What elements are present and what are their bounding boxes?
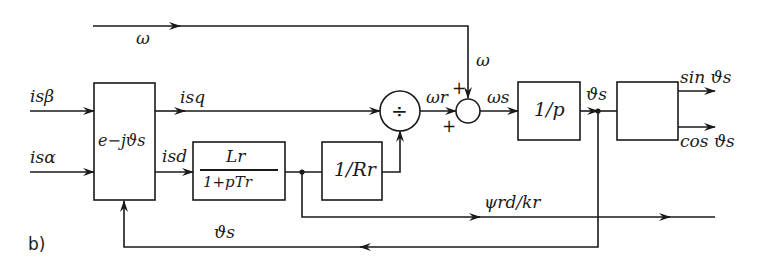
i-sq-label: isq [180, 89, 205, 106]
inv-rr-to-divider [382, 131, 400, 172]
rotation-block-label: e−jϑs [98, 133, 145, 149]
sum-circle [456, 99, 480, 123]
psi-rd-line [302, 172, 480, 217]
sum-plus-top: + [452, 80, 466, 97]
theta-feedback-label: ϑs [214, 224, 235, 241]
cos-output-label: cos ϑs [680, 133, 735, 150]
panel-label: b) [28, 236, 45, 253]
junction-dot-theta [595, 108, 600, 113]
sin-output-label: sin ϑs [680, 69, 731, 86]
divider-symbol: ÷ [391, 101, 408, 121]
omega-down-label: ω [476, 52, 490, 69]
psi-rd-label: ψrd/kr [484, 194, 541, 211]
sum-plus-left: + [442, 118, 456, 135]
lr-fraction-bar [200, 169, 278, 171]
theta-s-label: ϑs [586, 86, 607, 103]
i-s-alpha-label: isα [30, 149, 56, 166]
inv-rr-label: 1/Rr [334, 160, 376, 179]
i-sd-label: isd [162, 148, 187, 165]
omega-top-label: ω [136, 30, 150, 47]
i-s-beta-label: isβ [30, 88, 54, 105]
lr-denominator: 1+pTr [203, 175, 252, 190]
integrator-label: 1/p [534, 100, 565, 119]
lr-numerator: Lr [226, 148, 245, 165]
junction-dot-psi [299, 169, 304, 174]
omega-r-label: ωr [426, 89, 448, 106]
omega-s-label: ωs [487, 89, 510, 106]
trig-block [617, 82, 678, 140]
theta-feedback-line [360, 111, 598, 247]
